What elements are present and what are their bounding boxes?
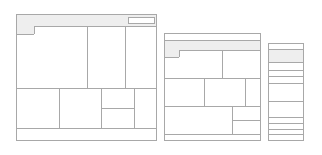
mobile-header bbox=[269, 50, 303, 62]
tablet-header bbox=[165, 41, 260, 50]
desktop-wireframe bbox=[16, 14, 157, 141]
desktop-logo-notch bbox=[17, 26, 34, 34]
tablet-logo-notch bbox=[165, 50, 179, 57]
mobile-wireframe bbox=[268, 43, 304, 141]
desktop-header-button bbox=[128, 17, 155, 24]
tablet-wireframe bbox=[164, 33, 261, 141]
